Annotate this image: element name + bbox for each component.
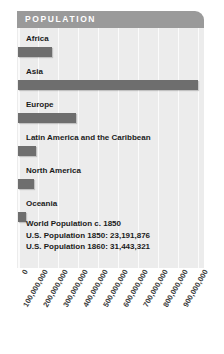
bar [18, 179, 34, 189]
population-bar-chart-figure: POPULATION AfricaAsiaEuropeLatin America… [0, 0, 224, 354]
bar-row: Asia [17, 67, 204, 102]
bar-category-label: Latin America and the Caribbean [26, 133, 151, 142]
x-tick-label: 0 [20, 268, 30, 276]
bar-category-label: Europe [26, 100, 54, 109]
bar-row: Africa [17, 34, 204, 69]
annotation-line: World Population c. 1850 [26, 218, 196, 230]
page-title: POPULATION [25, 14, 96, 24]
bar-category-label: Asia [26, 67, 43, 76]
bar-row: Latin America and the Caribbean [17, 133, 204, 168]
annotation-line: U.S. Population 1860: 31,443,321 [26, 241, 196, 253]
annotation-block: World Population c. 1850U.S. Population … [26, 218, 196, 253]
bar-row: Europe [17, 100, 204, 135]
bar-row: North America [17, 166, 204, 201]
chart-header-band: POPULATION [17, 11, 204, 28]
bar-category-label: Oceania [26, 199, 57, 208]
bar [18, 113, 76, 123]
annotation-line: U.S. Population 1850: 23,191,876 [26, 230, 196, 242]
bar-category-label: Africa [26, 34, 49, 43]
bar [18, 212, 26, 222]
bar [18, 47, 52, 57]
bar [18, 80, 198, 90]
x-axis-tick-labels: 0100,000,000200,000,000300,000,000400,00… [17, 268, 217, 354]
bar-category-label: North America [26, 166, 81, 175]
bar [18, 146, 36, 156]
